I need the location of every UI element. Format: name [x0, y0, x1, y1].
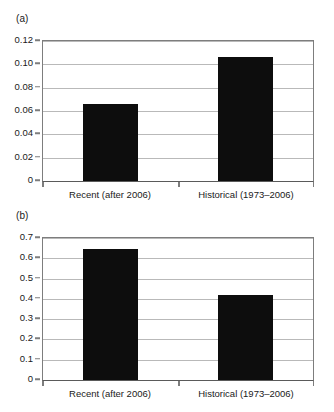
y-tick-mark: [35, 338, 40, 340]
y-tick-label: 0.3: [20, 313, 33, 323]
y-tick-label: 0.10: [15, 58, 34, 68]
y-tick-mark: [35, 156, 40, 158]
y-tick-mark: [35, 133, 40, 135]
x-tick-mark: [42, 182, 44, 187]
x-tick-mark: [178, 182, 180, 187]
panel-a-bars: [43, 41, 313, 181]
y-tick-mark: [35, 257, 40, 259]
panel-a: (a) 00.020.040.060.080.100.12 Recent (af…: [0, 0, 334, 206]
x-tick-mark: [178, 381, 180, 386]
panel-b-plot-area: [42, 237, 314, 381]
y-tick-label: 0.12: [15, 35, 34, 45]
bar-historical: [218, 295, 273, 380]
x-tick-mark: [42, 381, 44, 386]
y-tick-mark: [35, 317, 40, 319]
panel-b-y-axis: 00.10.20.30.40.50.60.7: [0, 237, 40, 381]
panel-a-label: (a): [16, 13, 29, 25]
panel-b: (b) 00.10.20.30.40.50.60.7 Recent (after…: [0, 200, 334, 412]
y-tick-label: 0.2: [20, 333, 33, 343]
y-tick-label: 0: [28, 374, 33, 384]
y-tick-label: 0.08: [15, 82, 34, 92]
panel-b-label: (b): [16, 210, 29, 222]
y-tick-mark: [35, 63, 40, 65]
y-tick-mark: [35, 179, 40, 181]
bar-recent: [83, 249, 138, 380]
y-tick-mark: [35, 277, 40, 279]
x-category-label: Recent (after 2006): [42, 388, 178, 400]
y-tick-label: 0.04: [15, 128, 34, 138]
y-tick-mark: [35, 358, 40, 360]
panel-b-x-labels: Recent (after 2006)Historical (1973–2006…: [42, 388, 314, 400]
x-category-label: Historical (1973–2006): [178, 388, 314, 400]
x-tick-mark: [313, 182, 315, 187]
panel-a-plot-area: [42, 40, 314, 182]
y-tick-label: 0.6: [20, 252, 33, 262]
y-tick-label: 0.5: [20, 273, 33, 283]
y-tick-label: 0.06: [15, 105, 34, 115]
y-tick-label: 0.4: [20, 293, 33, 303]
y-tick-mark: [35, 109, 40, 111]
y-tick-label: 0.02: [15, 152, 34, 162]
y-tick-mark: [35, 378, 40, 380]
y-tick-mark: [35, 39, 40, 41]
y-tick-label: 0.7: [20, 232, 33, 242]
x-tick-mark: [313, 381, 315, 386]
y-tick-mark: [35, 297, 40, 299]
y-tick-label: 0.1: [20, 354, 33, 364]
y-tick-mark: [35, 236, 40, 238]
figure-two-panel-bar-charts: (a) 00.020.040.060.080.100.12 Recent (af…: [0, 0, 334, 412]
panel-a-y-axis: 00.020.040.060.080.100.12: [0, 40, 40, 182]
bar-recent: [83, 104, 138, 181]
y-tick-mark: [35, 86, 40, 88]
panel-b-bars: [43, 238, 313, 380]
bar-historical: [218, 57, 273, 181]
y-tick-label: 0: [28, 175, 33, 185]
